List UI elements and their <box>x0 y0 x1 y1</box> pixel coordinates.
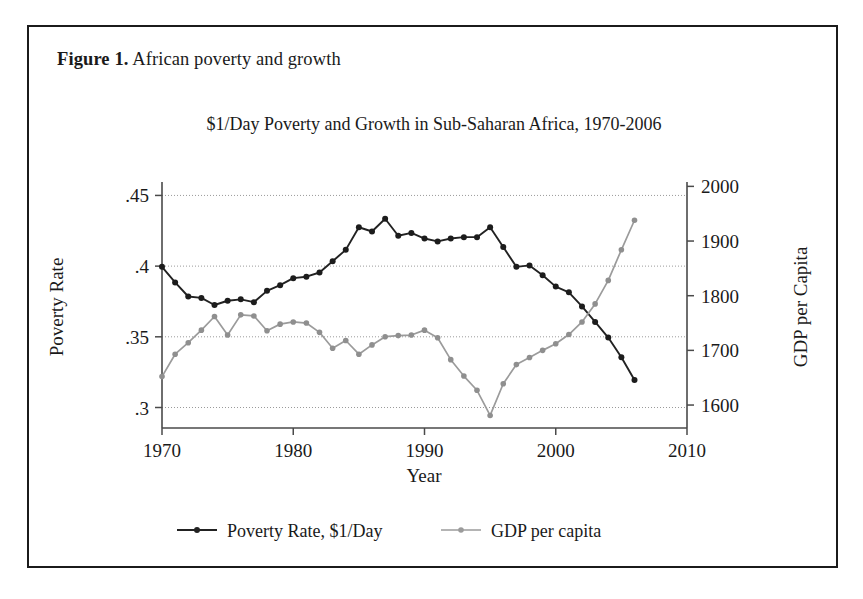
y-axis-right-title: GDP per Capita <box>790 246 811 367</box>
data-point-gdp-per-capita <box>317 330 323 336</box>
data-point-poverty-rate <box>527 262 533 268</box>
data-point-gdp-per-capita <box>514 362 520 368</box>
data-point-poverty-rate <box>592 319 598 325</box>
data-point-gdp-per-capita <box>369 342 375 348</box>
data-point-poverty-rate <box>513 264 519 270</box>
data-point-gdp-per-capita <box>264 328 270 334</box>
data-point-poverty-rate <box>290 275 296 281</box>
data-point-poverty-rate <box>448 236 454 242</box>
data-point-poverty-rate <box>343 247 349 253</box>
x-axis-tick-label: 1990 <box>406 440 444 461</box>
series-layer <box>159 216 638 418</box>
legend-label-gdp-per-capita: GDP per capita <box>491 521 601 541</box>
data-point-poverty-rate <box>369 228 375 234</box>
data-point-gdp-per-capita <box>592 301 598 307</box>
data-point-poverty-rate <box>474 234 480 240</box>
data-point-gdp-per-capita <box>277 321 283 327</box>
y-axis-left-tick-label: .3 <box>135 398 149 419</box>
figure-frame: Figure 1. African poverty and growth $1/… <box>27 25 838 568</box>
data-point-poverty-rate <box>422 236 428 242</box>
data-point-gdp-per-capita <box>632 217 638 223</box>
data-point-poverty-rate <box>356 224 362 230</box>
series-line-gdp-per-capita <box>162 220 635 415</box>
y-axis-left-tick-label: .35 <box>125 327 149 348</box>
y-axis-left-title: Poverty Rate <box>46 258 67 357</box>
data-point-poverty-rate <box>579 303 585 309</box>
y-axis-left-tick-label: .4 <box>135 256 150 277</box>
chart-canvas: $1/Day Poverty and Growth in Sub-Saharan… <box>29 27 840 570</box>
data-point-gdp-per-capita <box>409 332 415 338</box>
y-axis-right-tick-label: 1600 <box>701 395 739 416</box>
data-point-poverty-rate <box>382 216 388 222</box>
data-point-gdp-per-capita <box>566 332 572 338</box>
data-point-gdp-per-capita <box>251 313 257 319</box>
data-point-poverty-rate <box>330 258 336 264</box>
y-axis-left-tick-label: .45 <box>125 185 149 206</box>
data-point-poverty-rate <box>225 298 231 304</box>
data-point-gdp-per-capita <box>500 381 506 387</box>
series-line-poverty-rate <box>162 219 635 380</box>
data-point-poverty-rate <box>618 354 624 360</box>
y-axis-right-tick-label: 1900 <box>701 231 739 252</box>
data-point-poverty-rate <box>185 294 191 300</box>
data-point-gdp-per-capita <box>448 357 454 363</box>
data-point-gdp-per-capita <box>159 374 165 380</box>
data-point-poverty-rate <box>553 284 559 290</box>
chart-legend: Poverty Rate, $1/DayGDP per capita <box>177 521 601 541</box>
data-point-poverty-rate <box>435 238 441 244</box>
data-point-gdp-per-capita <box>422 327 428 333</box>
data-point-poverty-rate <box>159 264 165 270</box>
data-point-gdp-per-capita <box>579 319 585 325</box>
y-axis-left-ticks: .3.35.4.45 <box>125 185 162 418</box>
data-point-gdp-per-capita <box>382 334 388 340</box>
data-point-poverty-rate <box>212 302 218 308</box>
y-axis-right-tick-label: 2000 <box>701 176 739 197</box>
data-point-gdp-per-capita <box>395 333 401 339</box>
x-axis-title: Year <box>406 465 442 486</box>
data-point-poverty-rate <box>566 289 572 295</box>
data-point-poverty-rate <box>198 295 204 301</box>
data-point-gdp-per-capita <box>527 355 533 361</box>
data-point-gdp-per-capita <box>199 327 205 333</box>
data-point-poverty-rate <box>408 230 414 236</box>
data-point-gdp-per-capita <box>487 413 493 419</box>
data-point-gdp-per-capita <box>619 247 625 253</box>
y-axis-right-tick-label: 1800 <box>701 286 739 307</box>
chart-title: $1/Day Poverty and Growth in Sub-Saharan… <box>207 114 662 134</box>
data-point-poverty-rate <box>461 234 467 240</box>
x-axis-ticks: 19701980199020002010 <box>143 428 706 461</box>
data-point-poverty-rate <box>277 282 283 288</box>
data-point-gdp-per-capita <box>212 314 218 320</box>
data-point-poverty-rate <box>395 233 401 239</box>
y-axis-right-tick-label: 1700 <box>701 340 739 361</box>
x-axis-tick-label: 2010 <box>668 440 706 461</box>
data-point-poverty-rate <box>540 272 546 278</box>
data-point-gdp-per-capita <box>343 338 349 344</box>
data-point-poverty-rate <box>605 335 611 341</box>
data-point-poverty-rate <box>264 288 270 294</box>
data-point-poverty-rate <box>317 269 323 275</box>
data-point-gdp-per-capita <box>461 373 467 379</box>
data-point-gdp-per-capita <box>172 351 178 357</box>
data-point-gdp-per-capita <box>356 351 362 357</box>
legend-label-poverty-rate: Poverty Rate, $1/Day <box>227 521 382 541</box>
data-point-gdp-per-capita <box>553 341 559 347</box>
data-point-gdp-per-capita <box>290 319 296 325</box>
data-point-gdp-per-capita <box>540 348 546 354</box>
y-axis-right-ticks: 16001700180019002000 <box>687 176 739 416</box>
data-point-gdp-per-capita <box>225 332 231 338</box>
data-point-poverty-rate <box>632 377 638 383</box>
data-point-gdp-per-capita <box>330 345 336 351</box>
legend-marker-poverty-rate <box>194 527 200 533</box>
data-point-poverty-rate <box>251 299 257 305</box>
data-point-gdp-per-capita <box>435 335 441 341</box>
data-point-poverty-rate <box>303 274 309 280</box>
legend-marker-gdp-per-capita <box>458 527 464 533</box>
data-point-gdp-per-capita <box>605 278 611 284</box>
data-point-gdp-per-capita <box>474 387 480 393</box>
x-axis-tick-label: 1980 <box>274 440 312 461</box>
data-point-poverty-rate <box>172 279 178 285</box>
data-point-gdp-per-capita <box>238 312 244 318</box>
data-point-poverty-rate <box>238 296 244 302</box>
data-point-gdp-per-capita <box>304 320 310 326</box>
